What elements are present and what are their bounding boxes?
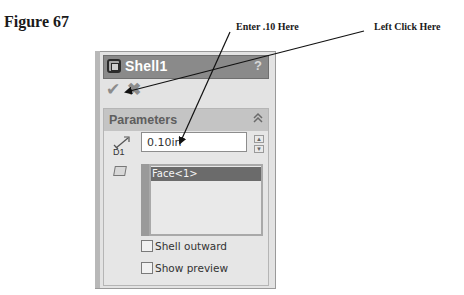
faces-to-remove-icon xyxy=(113,166,127,176)
show-preview-checkbox[interactable] xyxy=(141,262,153,274)
show-preview-label: Show preview xyxy=(155,262,228,274)
shell-outward-label: Shell outward xyxy=(155,240,227,252)
thickness-spin-down[interactable]: ▼ xyxy=(254,145,264,153)
thickness-label: D1 xyxy=(113,147,125,157)
selection-box-indicator xyxy=(141,164,149,236)
list-item-face[interactable]: Face<1> xyxy=(151,167,261,181)
parameters-header[interactable]: Parameters xyxy=(104,109,268,131)
checkmark-icon: ✔ xyxy=(106,80,120,99)
collapse-chevron-icon[interactable] xyxy=(253,112,263,127)
show-preview-option[interactable]: Show preview xyxy=(141,261,228,275)
shell-feature-icon xyxy=(107,59,121,73)
thickness-input[interactable] xyxy=(141,132,247,152)
shell-outward-checkbox[interactable] xyxy=(141,240,153,252)
feature-title: Shell1 xyxy=(125,58,167,74)
feature-titlebar: Shell1 ? xyxy=(103,55,269,79)
figure-label: Figure 67 xyxy=(4,13,69,31)
faces-to-remove-list[interactable]: Face<1> xyxy=(149,164,263,236)
ok-button[interactable]: ✔ xyxy=(106,82,124,98)
cancel-button[interactable]: ✖ xyxy=(127,82,143,98)
x-icon: ✖ xyxy=(127,80,141,99)
parameters-section: Parameters D1 ▲ ▼ Face<1> Shell outward … xyxy=(103,108,269,286)
help-button[interactable]: ? xyxy=(254,58,262,73)
parameters-title: Parameters xyxy=(109,113,177,127)
callout-left-click: Left Click Here xyxy=(374,21,440,32)
thickness-spin-up[interactable]: ▲ xyxy=(254,135,264,143)
shell-outward-option[interactable]: Shell outward xyxy=(141,239,227,253)
panel-left-edge xyxy=(95,51,100,288)
callout-enter-value: Enter .10 Here xyxy=(236,21,299,32)
